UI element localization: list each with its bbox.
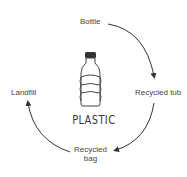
stage-label-recycled-bag: Recycled bag	[74, 145, 107, 163]
arrow-bag-to-landfill	[28, 103, 70, 152]
plastic-bottle-icon	[80, 52, 101, 106]
stage-label-landfill: Landfill	[11, 88, 36, 97]
diagram-title: PLASTIC	[72, 113, 110, 127]
arrow-tub-to-bag	[116, 103, 154, 150]
stage-label-bottle: Bottle	[80, 17, 100, 26]
stage-label-recycled-tub: Recycled tub	[135, 88, 181, 97]
arrow-bottle-to-tub	[108, 24, 154, 76]
